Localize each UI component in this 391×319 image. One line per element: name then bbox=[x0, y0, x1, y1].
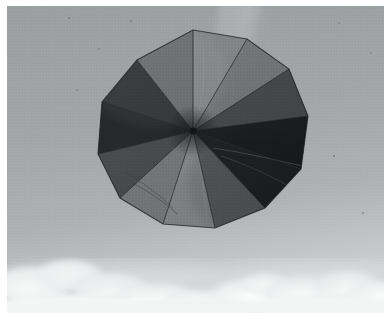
photograph-canvas: Multicolored panel parachute kite flying… bbox=[7, 6, 384, 313]
kite-center-hub[interactable] bbox=[190, 128, 197, 135]
photograph-frame: Multicolored panel parachute kite flying… bbox=[0, 0, 391, 319]
kite-fabric-shading bbox=[7, 6, 384, 313]
kite-layer[interactable] bbox=[7, 6, 384, 313]
